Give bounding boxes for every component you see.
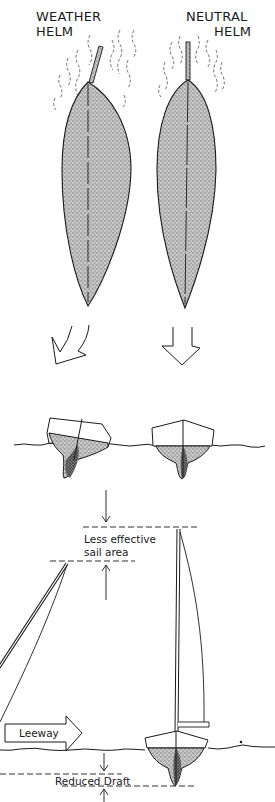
downward-arrow <box>162 327 200 365</box>
heeled-mast-sail <box>0 563 68 722</box>
svg-text:Reduced Draft: Reduced Draft <box>55 775 130 787</box>
svg-text:Leeway: Leeway <box>19 727 59 739</box>
svg-text:sail area: sail area <box>84 546 129 558</box>
sail-area-dimension <box>50 490 198 600</box>
svg-text:Less effective: Less effective <box>84 533 156 545</box>
upright-hull-bottom <box>145 731 208 786</box>
heel-direction-arrow <box>52 325 89 364</box>
heeled-hull-section <box>47 418 111 478</box>
weather-helm-label: WEATHER HELM <box>36 9 101 39</box>
upright-hull-section <box>152 420 214 479</box>
leeway-arrow: Leeway <box>5 716 82 751</box>
svg-text:WEATHER: WEATHER <box>36 9 101 24</box>
weather-helm-hull <box>54 30 136 306</box>
upright-mast-sail <box>175 529 209 732</box>
neutral-helm-hull <box>157 36 224 308</box>
svg-text:HELM: HELM <box>36 24 73 39</box>
svg-text:NEUTRAL: NEUTRAL <box>186 9 248 24</box>
neutral-helm-label: NEUTRAL HELM <box>186 9 251 39</box>
svg-text:HELM: HELM <box>214 24 251 39</box>
sailing-helm-diagram: WEATHER HELM NEUTRAL HELM <box>0 0 275 802</box>
less-effective-sail-area-label: Less effective sail area <box>84 533 156 558</box>
reduced-draft-label: Reduced Draft <box>55 775 130 787</box>
